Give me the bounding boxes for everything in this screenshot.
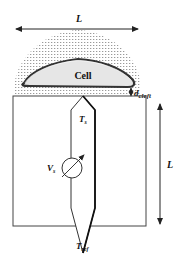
voltage-source-icon [62, 158, 82, 178]
source-label: Vs [47, 163, 56, 174]
width-label: L [75, 13, 82, 24]
cleft-label: dcleft [134, 88, 152, 100]
cell-label: Cell [74, 70, 91, 81]
height-label: L [166, 159, 173, 170]
cell-electrode-diagram: L Cell dcleft Ts Vs Tref L [0, 0, 181, 263]
